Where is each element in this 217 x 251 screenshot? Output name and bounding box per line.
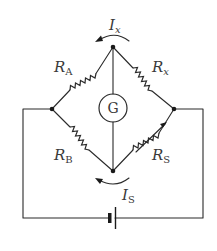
junction-right xyxy=(172,107,177,112)
galvanometer-label: G xyxy=(107,100,118,116)
current-arrow-Ix-icon xyxy=(95,35,129,42)
battery-icon xyxy=(108,207,116,229)
resistor-RA-icon xyxy=(52,47,113,109)
label-RS: RS xyxy=(151,146,170,165)
junction-left xyxy=(50,107,55,112)
current-arrow-IS-icon xyxy=(95,178,129,184)
resistor-Rx-icon xyxy=(113,47,174,109)
label-Ix: Ix xyxy=(108,16,121,35)
junction-bottom xyxy=(111,169,116,174)
label-Rx: Rx xyxy=(151,58,169,77)
junction-top xyxy=(111,45,116,50)
label-IS: IS xyxy=(121,186,135,205)
wheatstone-bridge-diagram: G Ix RA Rx RB RS xyxy=(0,0,217,251)
label-RA: RA xyxy=(53,58,73,77)
galvanometer-icon: G xyxy=(99,47,127,171)
label-RB: RB xyxy=(53,146,73,165)
